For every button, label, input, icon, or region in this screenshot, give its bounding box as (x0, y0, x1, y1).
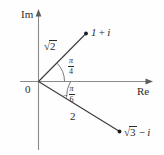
modulus-label-sqrt-2: √2 (44, 40, 57, 52)
origin-label: 0 (25, 84, 31, 95)
fraction-numerator: π (69, 85, 75, 93)
angle-label-minus-pi-over-6: − π 6 (63, 86, 75, 105)
fraction-denominator: 6 (69, 96, 75, 104)
imaginary-axis-label: Im (21, 9, 33, 20)
point-imaginary-part: i (147, 126, 150, 138)
real-axis-label: Re (137, 86, 149, 97)
argand-diagram-figure: Im Re 0 1 + i √2 π 4 − π 6 2 √3 − i (0, 0, 164, 155)
radicand: 2 (49, 40, 57, 52)
angle-label-pi-over-4: π 4 (68, 58, 74, 77)
point-label-sqrt3-minus-i: √3 − i (124, 126, 150, 138)
fraction-denominator: 4 (68, 68, 74, 76)
fraction-pi-over-4: π 4 (68, 57, 74, 76)
point-imaginary-part: i (107, 26, 110, 38)
radicand: 3 (129, 126, 137, 138)
radical-sqrt-2: √2 (44, 40, 57, 52)
modulus-label-2: 2 (70, 111, 76, 122)
radical-sqrt-3: √3 (124, 126, 137, 138)
fraction-pi-over-6: π 6 (69, 85, 75, 104)
angle-arc-pi-over-4 (57, 63, 65, 81)
minus-sign: − (63, 92, 68, 100)
fraction-numerator: π (68, 57, 74, 65)
point-label-1-plus-i: 1 + i (91, 27, 110, 38)
ray-to-sqrt3-minus-i (39, 82, 122, 134)
